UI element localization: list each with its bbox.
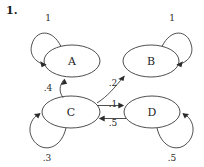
self-loop-d [157, 113, 193, 148]
self-loop-c [30, 113, 66, 148]
self-loop-a-path [31, 33, 61, 64]
edge-c-to-a [60, 79, 67, 98]
self-loop-d-weight-label: .5 [168, 153, 177, 163]
edge-c-to-d-weight-label: .1 [109, 99, 118, 109]
self-loop-b-weight-label: 1 [169, 13, 175, 23]
edge-d-to-c-weight-label: .5 [109, 118, 118, 128]
node-c[interactable]: C [42, 96, 100, 128]
self-loop-d-arrowhead [182, 113, 189, 118]
edge-c-to-b-weight-label: .2 [109, 78, 118, 88]
node-d-label: D [148, 106, 157, 119]
edge-d-to-c-arrowhead [99, 116, 105, 122]
self-loop-c-weight-label: .3 [43, 153, 52, 163]
self-loop-c-arrowhead [34, 113, 41, 118]
edge-c-to-d-arrowhead [118, 103, 124, 109]
state-diagram: A B C D 1 1 .3 .5 .4 .2 .1 .5 [0, 0, 204, 167]
self-loop-a-weight-label: 1 [45, 13, 51, 23]
self-loop-b [162, 33, 192, 67]
node-b-label: B [147, 55, 155, 68]
node-a-label: A [67, 55, 77, 68]
diagram-page: 1. [0, 0, 204, 167]
self-loop-d-path [157, 114, 193, 148]
self-loop-c-path [30, 114, 66, 148]
node-b[interactable]: B [123, 45, 179, 77]
self-loop-a [31, 33, 61, 67]
node-d[interactable]: D [124, 96, 180, 128]
edge-c-to-a-weight-label: .4 [44, 83, 53, 93]
node-a[interactable]: A [44, 45, 100, 77]
self-loop-b-path [162, 33, 192, 64]
node-c-label: C [67, 106, 75, 119]
edge-c-to-b-arrowhead [118, 76, 124, 81]
